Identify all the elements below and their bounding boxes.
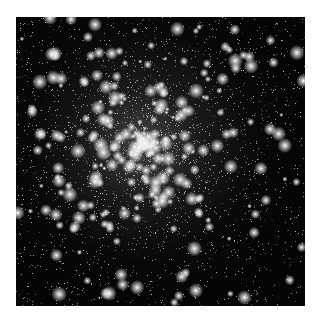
star-cluster-image bbox=[16, 17, 305, 306]
starfield bbox=[16, 17, 305, 306]
